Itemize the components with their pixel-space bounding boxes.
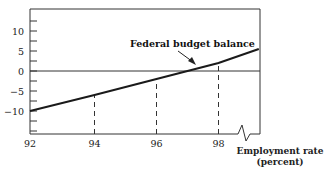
x-tick-label: 98 [212, 138, 224, 149]
x-axis-title-line2: (percent) [256, 157, 303, 167]
x-tick-label: 94 [88, 138, 100, 149]
x-axis-tick-labels: 92949698 [24, 138, 225, 149]
budget-balance-chart: 1050−5−10 92949698 Federal budget balanc… [0, 0, 324, 175]
x-tick-label: 92 [24, 138, 36, 149]
annotation-arrow-icon [178, 51, 196, 65]
y-axis-ticks [30, 21, 37, 131]
y-tick-label: −5 [10, 86, 24, 97]
y-tick-label: 5 [18, 46, 24, 57]
x-axis-with-break [30, 125, 260, 141]
x-tick-label: 96 [150, 138, 162, 149]
y-tick-label: 10 [12, 26, 24, 37]
series-annotation-label: Federal budget balance [130, 38, 255, 49]
y-axis-tick-labels: 1050−5−10 [4, 26, 24, 117]
y-tick-label: 0 [18, 66, 24, 77]
y-tick-label: −10 [4, 106, 24, 117]
x-axis-title-line1: Employment rate [237, 146, 324, 156]
dashed-guide-lines [95, 63, 219, 134]
federal-budget-balance-line [30, 49, 259, 111]
